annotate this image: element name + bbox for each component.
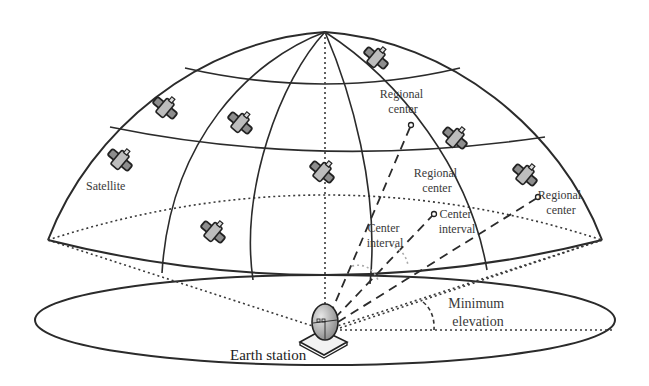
center-interval-arc-1 <box>352 265 378 280</box>
label-satellite: Satellite <box>86 179 125 193</box>
label-regional-center-2: Regional center <box>414 166 460 195</box>
label-earth-station: Earth station <box>230 347 307 363</box>
cone-line-left <box>48 240 325 330</box>
meridian-3 <box>325 32 372 284</box>
minimum-elevation-arc <box>423 302 434 330</box>
latitude-line-middle <box>110 127 545 151</box>
satellite-coverage-diagram: Satellite Regional center Regional cente… <box>0 0 649 386</box>
satellite-icon <box>197 214 231 248</box>
label-center-interval-1: Center interval <box>367 221 404 250</box>
label-center-interval-2: Center interval <box>439 207 476 236</box>
label-minimum-elevation: Minimum elevation <box>448 296 508 329</box>
satellite-icon <box>104 142 138 176</box>
regional-center-marker-2 <box>432 212 437 217</box>
satellite-icon <box>306 154 340 188</box>
label-regional-center-3: Regional center <box>538 188 584 217</box>
label-regional-center-1: Regional center <box>380 87 426 116</box>
satellite-icon <box>509 157 543 191</box>
satellite-icon <box>149 90 183 124</box>
regional-center-marker-1 <box>409 123 414 128</box>
satellite-icon <box>224 105 258 139</box>
satellite-icon <box>360 40 394 74</box>
latitude-line-upper <box>185 68 460 84</box>
